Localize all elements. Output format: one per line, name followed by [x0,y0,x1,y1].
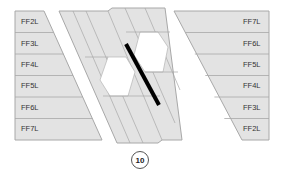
right-label-2: FF6L [243,40,261,48]
figure-number: 10 [131,151,149,169]
left-label-5: FF6L [21,104,39,112]
right-panel [174,11,269,140]
left-label-1: FF2L [21,18,39,26]
left-label-2: FF3L [21,40,39,48]
right-label-6: FF2L [243,125,261,133]
right-label-1: FF7L [243,18,261,26]
right-label-5: FF3L [243,104,261,112]
right-label-4: FF4L [243,82,261,90]
left-label-4: FF5L [21,82,39,90]
left-label-6: FF7L [21,125,39,133]
right-label-3: FF5L [243,61,261,69]
left-label-3: FF4L [21,61,39,69]
